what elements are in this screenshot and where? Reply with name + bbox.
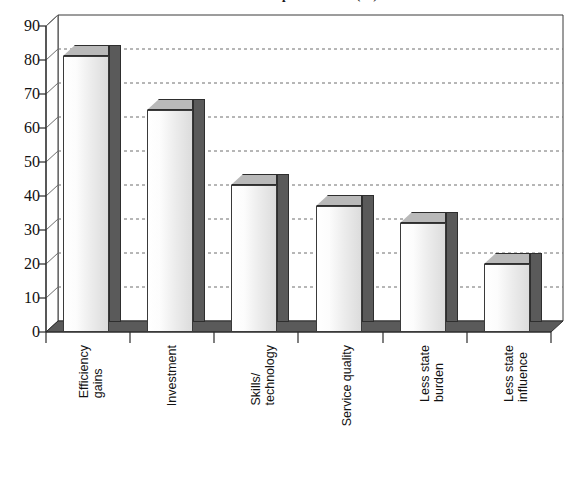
x-axis-category-labels: Efficiency gains Investment Skills/ tech… [0,0,566,494]
x-label-service-quality: Service quality [341,345,355,426]
x-label-less-state-influence: Less state influence [503,345,530,402]
x-label-less-state-burden: Less state burden [419,345,446,402]
x-label-efficiency-gains: Efficiency gains [78,345,105,398]
bar-chart: Main benefits of privatisation (%) 90 80… [0,0,566,494]
x-label-skills-technology: Skills/ technology [250,345,277,405]
x-label-investment: Investment [166,345,180,406]
